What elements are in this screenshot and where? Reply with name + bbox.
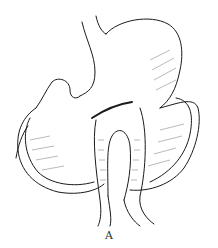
esophagus-left-line <box>80 22 95 96</box>
omentum-left-inner <box>25 118 94 185</box>
anastomosis-suture-line <box>92 102 132 118</box>
omentum-left-outline <box>18 108 104 193</box>
jejunum-left-outer <box>94 120 100 226</box>
omentum-right-outline <box>130 102 199 191</box>
illustration <box>0 0 218 248</box>
esophagus-right-line <box>96 16 106 34</box>
stomach-lesser-curvature <box>36 79 80 108</box>
omentum-right-inner <box>150 98 191 182</box>
stomach-drawing <box>0 0 218 248</box>
jejunum-limb-right <box>124 200 140 226</box>
shading-hatching <box>30 50 184 180</box>
jejunum-limb-left <box>108 196 111 226</box>
stomach-greater-curvature <box>106 19 182 108</box>
jejunum-right-outer <box>140 108 154 224</box>
figure-caption: A <box>0 229 218 242</box>
jejunum-inner-loop <box>108 131 131 200</box>
